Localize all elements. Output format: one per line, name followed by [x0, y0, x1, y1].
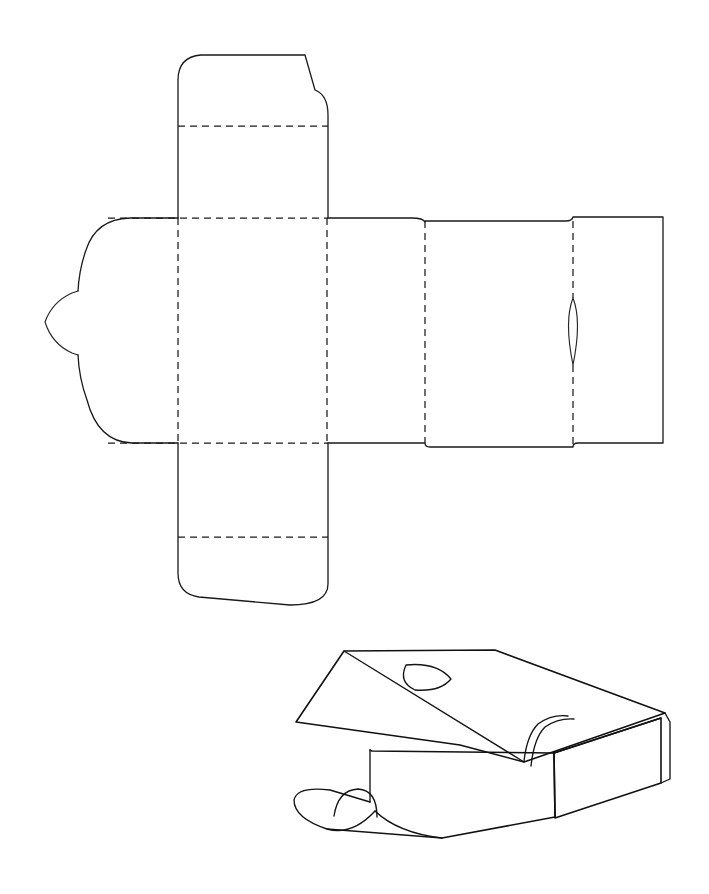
bottom-flap [178, 443, 328, 605]
lid-thumb-hole [403, 665, 451, 691]
box-inner-flap-edge [531, 719, 574, 766]
left-tongue-tab [45, 291, 78, 355]
dieline-sheet [0, 0, 709, 894]
box-right-corner-edge [661, 713, 670, 783]
box-top-back-edge [554, 718, 661, 753]
top-flap [178, 55, 328, 218]
left-rounded-flap-lower [78, 355, 178, 443]
packaging-dieline-drawing [0, 0, 709, 894]
right-body-outline [328, 217, 663, 447]
box-front-bottom-edge [327, 829, 442, 838]
assembled-box-3d [294, 650, 670, 838]
box-front-wall [370, 750, 555, 838]
lid-top-face [296, 650, 665, 762]
left-rounded-flap [78, 218, 178, 291]
thumb-cutout [569, 298, 578, 365]
front-tongue-outer [294, 789, 375, 830]
flat-dieline [45, 55, 663, 605]
